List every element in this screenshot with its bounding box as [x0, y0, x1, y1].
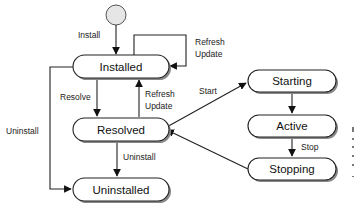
edge-label-refresh-self: Refresh: [195, 37, 225, 47]
state-resolved: Resolved: [73, 118, 171, 143]
edge-label-resolve: Resolve: [60, 92, 91, 102]
state-label-starting: Starting: [272, 75, 312, 87]
edge-uninstall-from-installed: Uninstall: [6, 67, 73, 189]
state-label-stopping: Stopping: [269, 163, 314, 175]
bundle-lifecycle-diagram: Install Refresh Update Resolve Refresh U…: [0, 0, 356, 216]
edge-label-refresh-resolved: Refresh: [145, 89, 175, 99]
edge-stop: Stop: [292, 137, 319, 156]
state-active: Active: [248, 115, 338, 139]
state-starting: Starting: [248, 70, 338, 94]
state-uninstalled: Uninstalled: [73, 178, 171, 203]
initial-node-icon: [106, 5, 126, 25]
edge-stopping-to-resolved: [167, 130, 248, 169]
cropped-text-fragments: [352, 127, 354, 177]
state-label-resolved: Resolved: [97, 124, 145, 136]
edge-label-uninstall-center: Uninstall: [123, 152, 156, 162]
edge-label-install: Install: [78, 30, 100, 40]
edge-label-update-resolved: Update: [145, 101, 173, 111]
edge-label-start: Start: [199, 86, 218, 96]
state-label-uninstalled: Uninstalled: [93, 184, 150, 196]
edge-label-update-self: Update: [195, 49, 223, 59]
state-installed: Installed: [73, 55, 171, 80]
edge-label-uninstall-left: Uninstall: [6, 126, 39, 136]
state-label-installed: Installed: [100, 61, 143, 73]
state-label-active: Active: [276, 120, 307, 132]
edge-refresh-update-resolved: Refresh Update: [139, 80, 175, 117]
edge-start: Start: [165, 83, 246, 128]
edge-install: Install: [78, 25, 116, 54]
state-stopping: Stopping: [248, 158, 338, 182]
edge-resolve: Resolve: [60, 78, 97, 116]
edge-uninstall-from-resolved: Uninstall: [117, 141, 156, 176]
edge-label-stop: Stop: [301, 142, 319, 152]
